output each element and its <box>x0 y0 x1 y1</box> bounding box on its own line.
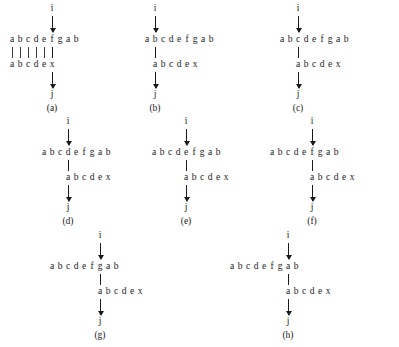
panel-h-top-char-6: g <box>276 262 284 272</box>
panel-b-bottom-char-2: c <box>167 60 175 70</box>
panel-a-top-sequence: abcdefgab <box>8 35 80 45</box>
panel-h-top-char-7: a <box>284 262 292 272</box>
panel-g-top-char-8: b <box>112 262 120 272</box>
panel-d-top-char-3: d <box>64 148 72 158</box>
panel-h-top-char-4: e <box>260 262 268 272</box>
panel-f-link <box>312 160 313 171</box>
panel-d-bottom-char-4: e <box>96 173 104 183</box>
panel-d-caption: (d) <box>48 217 88 227</box>
panel-c-top-sequence: abcdefgab <box>278 35 350 45</box>
panel-f-top-char-5: f <box>308 148 316 158</box>
panel-h-sink-node: j <box>278 317 298 327</box>
panel-b-top-char-6: g <box>191 35 199 45</box>
panel-h-top-char-0: a <box>228 262 236 272</box>
panel-b-sink-node: j <box>145 90 165 100</box>
panel-b-top-char-1: b <box>151 35 159 45</box>
panel-e-top-char-2: c <box>166 148 174 158</box>
panel-a-bottom-char-2: c <box>24 60 32 70</box>
panel-b-top-char-4: e <box>175 35 183 45</box>
panel-f-caption: (f) <box>292 217 332 227</box>
panel-a-match-tick-3 <box>36 47 37 58</box>
panel-c-source-node: i <box>288 4 308 14</box>
panel-c-bottom-char-3: d <box>318 60 326 70</box>
panel-c-arrow-out <box>298 72 299 88</box>
panel-e-bottom-char-5: x <box>222 173 230 183</box>
panel-a-link <box>52 47 53 58</box>
panel-a-match-tick-1 <box>20 47 21 58</box>
panel-a-top-char-8: b <box>72 35 80 45</box>
panel-d-arrow-out <box>68 185 69 201</box>
panel-c-top-char-7: a <box>334 35 342 45</box>
panel-g-bottom-char-2: c <box>112 287 120 297</box>
panel-e-link <box>186 160 187 171</box>
panel-f-top-char-4: e <box>300 148 308 158</box>
panel-h-top-char-8: b <box>292 262 300 272</box>
panel-b-bottom-char-0: a <box>151 60 159 70</box>
panel-e-top-char-3: d <box>174 148 182 158</box>
panel-e-top-char-5: f <box>190 148 198 158</box>
panel-c-bottom-char-1: b <box>302 60 310 70</box>
panel-f-bottom-char-5: x <box>348 173 356 183</box>
panel-b-caption: (b) <box>135 104 175 114</box>
panel-a-source-node: i <box>42 4 62 14</box>
panel-f-top-char-1: b <box>276 148 284 158</box>
panel-h-bottom-char-3: d <box>308 287 316 297</box>
panel-g-top-char-5: f <box>88 262 96 272</box>
panel-a-bottom-char-1: b <box>16 60 24 70</box>
panel-g-top-char-0: a <box>48 262 56 272</box>
panel-a-sink-node: j <box>42 90 62 100</box>
panel-f-top-char-8: b <box>332 148 340 158</box>
panel-b-top-char-2: c <box>159 35 167 45</box>
panel-g-bottom-char-0: a <box>96 287 104 297</box>
panel-b-top-char-7: a <box>199 35 207 45</box>
panel-c-bottom-char-0: a <box>294 60 302 70</box>
panel-f-top-sequence: abcdefgab <box>268 148 340 158</box>
panel-d-top-sequence: abcdefgab <box>40 148 112 158</box>
panel-g-top-char-7: a <box>104 262 112 272</box>
panel-b-bottom-char-5: x <box>191 60 199 70</box>
panel-b-bottom-char-1: b <box>159 60 167 70</box>
panel-b-bottom-char-4: e <box>183 60 191 70</box>
panel-c-bottom-sequence: abcdex <box>294 60 342 70</box>
panel-a-top-char-2: c <box>24 35 32 45</box>
panel-d-top-char-7: a <box>96 148 104 158</box>
panel-d-top-char-4: e <box>72 148 80 158</box>
panel-d-bottom-char-3: d <box>88 173 96 183</box>
panel-b-source-node: i <box>145 4 165 14</box>
panel-f-top-char-0: a <box>268 148 276 158</box>
panel-d-sink-node: j <box>58 203 78 213</box>
panel-f-bottom-char-0: a <box>308 173 316 183</box>
panel-h-caption: (h) <box>268 331 308 341</box>
panel-h-source-node: i <box>278 231 298 241</box>
panel-a-top-char-3: d <box>32 35 40 45</box>
panel-h-arrow-out <box>288 299 289 315</box>
panel-a-bottom-char-0: a <box>8 60 16 70</box>
panel-h-bottom-char-1: b <box>292 287 300 297</box>
panel-c-arrow-in <box>298 16 299 32</box>
panel-h-top-sequence: abcdefgab <box>228 262 300 272</box>
panel-d-bottom-char-5: x <box>104 173 112 183</box>
panel-e-top-sequence: abcdefgab <box>150 148 222 158</box>
panel-a-arrow-in <box>52 16 53 32</box>
panel-g-link <box>100 274 101 285</box>
panel-c-link <box>298 47 299 58</box>
panel-a-top-char-4: e <box>40 35 48 45</box>
panel-g-top-char-4: e <box>80 262 88 272</box>
panel-a-bottom-char-3: d <box>32 60 40 70</box>
panel-d-top-char-0: a <box>40 148 48 158</box>
panel-e-arrow-in <box>186 129 187 145</box>
panel-b-arrow-in <box>155 16 156 32</box>
panel-f-bottom-char-1: b <box>316 173 324 183</box>
panel-c-top-char-4: e <box>310 35 318 45</box>
panel-d-bottom-char-2: c <box>80 173 88 183</box>
alignment-figure: iabcdefgababcdexj(a)iabcdefgababcdexj(b)… <box>0 0 399 347</box>
panel-h-top-char-5: f <box>268 262 276 272</box>
panel-e-sink-node: j <box>176 203 196 213</box>
panel-b-top-char-0: a <box>143 35 151 45</box>
panel-b-top-char-5: f <box>183 35 191 45</box>
panel-c-top-char-6: g <box>326 35 334 45</box>
panel-h-top-char-1: b <box>236 262 244 272</box>
panel-e-bottom-sequence: abcdex <box>182 173 230 183</box>
panel-a-match-tick-2 <box>28 47 29 58</box>
panel-c-top-char-3: d <box>302 35 310 45</box>
